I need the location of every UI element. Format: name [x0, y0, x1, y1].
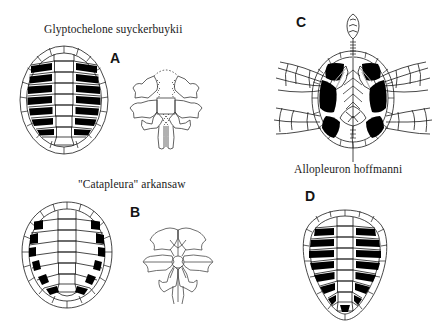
panel-a-skull-drawing	[126, 62, 206, 152]
panel-b-carapace-drawing	[20, 200, 114, 310]
caption-glyptochelone: Glyptochelone suyckerbuykii	[44, 23, 182, 35]
panel-letter-b: B	[130, 204, 140, 220]
figure-plate: Glyptochelone suyckerbuykii "Catapleura"…	[0, 0, 438, 328]
caption-catapleura: "Catapleura" arkansaw	[78, 178, 186, 190]
panel-c-skeleton-drawing	[268, 6, 438, 162]
panel-d-carapace-drawing	[296, 206, 394, 324]
panel-letter-a: A	[110, 50, 120, 66]
caption-allopleuron: Allopleuron hoffmanni	[294, 163, 402, 175]
panel-b-skull-drawing	[140, 222, 216, 306]
panel-a-carapace-drawing	[18, 44, 110, 156]
panel-letter-d: D	[305, 188, 315, 204]
